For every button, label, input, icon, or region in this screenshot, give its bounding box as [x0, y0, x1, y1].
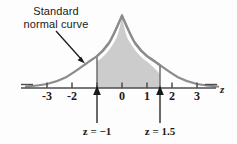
marker-arrow-minus1	[93, 86, 101, 124]
tick-label-minus2: -2	[60, 89, 84, 104]
annotation-label-minus1: z = −1	[62, 125, 132, 137]
x-axis-name-label: z	[220, 83, 224, 95]
x-axis-ticks	[47, 83, 197, 89]
tick-label-2: 2	[160, 89, 184, 104]
shaded-region-minus1-to-1point5	[97, 16, 160, 88]
tick-label-1: 1	[135, 89, 159, 104]
annotation-label-1point5: z = 1.5	[125, 125, 195, 137]
curve-caption-label: Standard normal curve	[9, 5, 103, 31]
callout-arrow	[56, 31, 85, 64]
standard-normal-curve-figure: Standard normal curve -3 -2 0 1 2 3 z z …	[0, 0, 237, 144]
tick-label-minus3: -3	[35, 89, 59, 104]
tick-label-0: 0	[110, 89, 134, 104]
tick-label-3: 3	[185, 89, 209, 104]
